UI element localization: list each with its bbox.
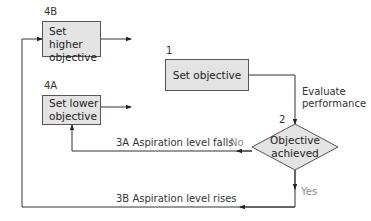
edge-label-3a: 3A Aspiration level falls bbox=[116, 137, 234, 148]
step-label-4a: 4A bbox=[44, 80, 57, 91]
node-set-higher-objective: Set higher objective bbox=[42, 21, 101, 57]
node-text-line: Set higher bbox=[49, 25, 100, 51]
edge-label-line: performance bbox=[302, 98, 366, 110]
step-label-4b: 4B bbox=[44, 6, 57, 17]
node-text-line: objective bbox=[49, 110, 98, 123]
step-label-2: 2 bbox=[279, 114, 285, 125]
edge-label-3b: 3B Aspiration level rises bbox=[116, 193, 237, 204]
branch-label-no: No bbox=[230, 137, 244, 148]
decision-text-line: achieved bbox=[250, 147, 340, 160]
edge-label-line: Evaluate bbox=[302, 86, 366, 98]
decision-text-line: Objective bbox=[250, 134, 340, 147]
branch-label-yes: Yes bbox=[301, 186, 317, 197]
node-text: Set objective bbox=[166, 69, 248, 82]
decision-text: Objective achieved bbox=[250, 134, 340, 160]
flowchart-canvas: 4B Set higher objective 1 Set objective … bbox=[0, 0, 371, 221]
step-label-1: 1 bbox=[166, 45, 172, 56]
node-set-lower-objective: Set lower objective bbox=[42, 95, 101, 125]
arrow-evaluate bbox=[249, 75, 295, 124]
node-set-objective: Set objective bbox=[165, 59, 249, 91]
node-text-line: objective bbox=[49, 51, 100, 64]
edge-label-evaluate: Evaluate performance bbox=[302, 86, 366, 110]
node-text: Set higher objective bbox=[49, 25, 100, 64]
node-text-line: Set lower bbox=[49, 97, 98, 110]
node-text: Set lower objective bbox=[49, 97, 98, 123]
